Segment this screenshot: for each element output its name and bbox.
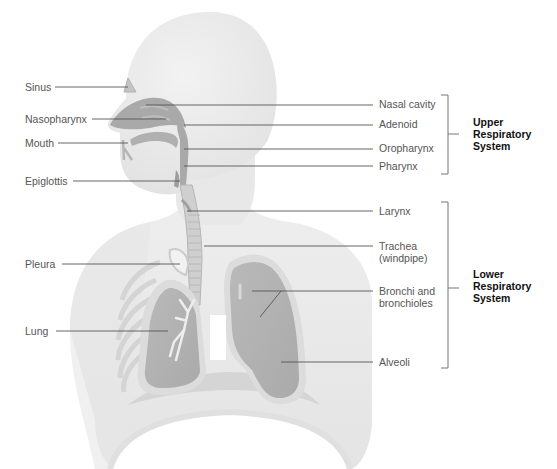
anatomy-illustration xyxy=(0,0,557,469)
group-lower-line3: System xyxy=(473,292,531,304)
label-alveoli: Alveoli xyxy=(379,356,410,368)
label-lung: Lung xyxy=(25,325,48,337)
label-trachea-line1: Trachea xyxy=(379,240,427,252)
group-upper-line1: Upper xyxy=(473,116,531,128)
group-label-lower-respiratory: Lower Respiratory System xyxy=(473,268,531,304)
label-adenoid: Adenoid xyxy=(379,118,418,130)
group-lower-line1: Lower xyxy=(473,268,531,280)
label-pharynx: Pharynx xyxy=(379,160,418,172)
label-oropharynx: Oropharynx xyxy=(379,142,434,154)
label-mouth: Mouth xyxy=(25,137,54,149)
group-label-upper-respiratory: Upper Respiratory System xyxy=(473,116,531,152)
mediastinum-shape xyxy=(210,315,226,360)
respiratory-system-diagram: Sinus Nasopharynx Mouth Epiglottis Pleur… xyxy=(0,0,557,469)
label-pleura: Pleura xyxy=(25,258,55,270)
label-bronchi-line1: Bronchi and xyxy=(379,285,435,297)
group-upper-line2: Respiratory xyxy=(473,128,531,140)
label-nasal-cavity: Nasal cavity xyxy=(379,98,436,110)
upper-bracket xyxy=(441,95,459,174)
label-trachea-line2: (windpipe) xyxy=(379,252,427,264)
label-bronchi-line2: bronchioles xyxy=(379,297,435,309)
label-larynx: Larynx xyxy=(379,205,411,217)
label-epiglottis: Epiglottis xyxy=(25,175,68,187)
label-sinus: Sinus xyxy=(25,81,51,93)
label-trachea: Trachea (windpipe) xyxy=(379,240,427,264)
label-bronchi: Bronchi and bronchioles xyxy=(379,285,435,309)
group-upper-line3: System xyxy=(473,140,531,152)
lower-bracket xyxy=(441,202,459,368)
group-lower-line2: Respiratory xyxy=(473,280,531,292)
label-nasopharynx: Nasopharynx xyxy=(25,113,87,125)
